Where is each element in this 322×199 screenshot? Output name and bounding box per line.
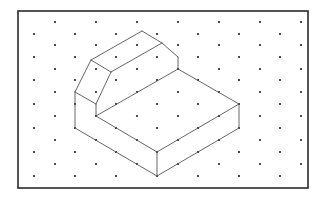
grid-dot (54, 44, 56, 46)
grid-dot (279, 33, 281, 35)
grid-dot (95, 91, 97, 93)
grid-dot (238, 151, 240, 153)
grid-dot (279, 79, 281, 81)
grid-dot (115, 56, 117, 58)
grid-dot (136, 68, 138, 70)
grid-dot (197, 103, 199, 105)
grid-dot (156, 33, 158, 35)
grid-dot (279, 127, 281, 129)
grid-dot (259, 115, 261, 117)
grid-dot (177, 91, 179, 93)
grid-dot (33, 175, 35, 177)
grid-dot (259, 163, 261, 165)
grid-dot (218, 68, 220, 70)
grid-dot (197, 56, 199, 58)
grid-dot (33, 151, 35, 153)
grid-dot (238, 56, 240, 58)
grid-dot (136, 21, 138, 23)
grid-dot (238, 79, 240, 81)
isometric-diagram (0, 0, 322, 199)
grid-dot (54, 139, 56, 141)
grid-dot (218, 44, 220, 46)
grid-dot (197, 175, 199, 177)
grid-dot (95, 163, 97, 165)
grid-dot (33, 33, 35, 35)
grid-dot (156, 56, 158, 58)
grid-dot (300, 68, 302, 70)
grid-dot (300, 21, 302, 23)
grid-dot (115, 175, 117, 177)
grid-dot (259, 44, 261, 46)
grid-dot (218, 163, 220, 165)
grid-dot (136, 44, 138, 46)
grid-dot (300, 163, 302, 165)
grid-dot (74, 33, 76, 35)
grid-dot (74, 175, 76, 177)
grid-dot (259, 68, 261, 70)
grid-dot (177, 44, 179, 46)
grid-dot (177, 21, 179, 23)
grid-dot (259, 21, 261, 23)
grid-dot (259, 139, 261, 141)
grid-dot (54, 68, 56, 70)
grid-dot (54, 91, 56, 93)
grid-dot (136, 115, 138, 117)
grid-dot (95, 44, 97, 46)
grid-dot (74, 151, 76, 153)
grid-dot (33, 127, 35, 129)
grid-dot (115, 33, 117, 35)
grid-dot (238, 175, 240, 177)
grid-dot (300, 91, 302, 93)
drawing-frame (18, 11, 308, 188)
grid-dot (279, 56, 281, 58)
grid-dot (95, 21, 97, 23)
grid-dot (95, 68, 97, 70)
grid-dot (238, 33, 240, 35)
grid-dot (300, 115, 302, 117)
grid-dot (74, 79, 76, 81)
grid-dot (259, 91, 261, 93)
grid-dot (300, 44, 302, 46)
grid-dot (177, 115, 179, 117)
grid-dot (279, 151, 281, 153)
grid-dot (54, 163, 56, 165)
grid-dot (156, 103, 158, 105)
grid-dot (279, 103, 281, 105)
grid-dot (33, 79, 35, 81)
grid-dot (54, 21, 56, 23)
grid-dot (74, 56, 76, 58)
grid-dot (115, 79, 117, 81)
grid-dot (218, 21, 220, 23)
grid-dot (156, 127, 158, 129)
grid-dot (197, 33, 199, 35)
grid-dot (300, 139, 302, 141)
grid-dot (33, 56, 35, 58)
grid-dot (279, 175, 281, 177)
grid-dot (33, 103, 35, 105)
grid-dot (54, 115, 56, 117)
